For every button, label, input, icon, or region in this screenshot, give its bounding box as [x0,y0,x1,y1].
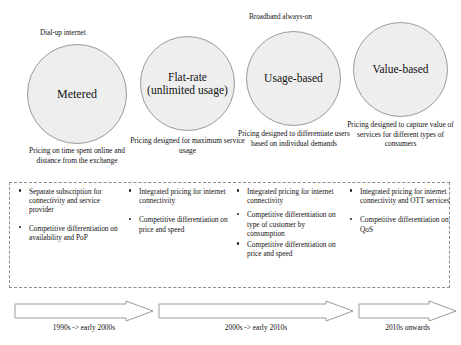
feature-item: Separate subscription for connectivity a… [18,187,123,215]
bullet-icon [237,189,239,191]
stage-3-caption: Pricing designed to differentiate users … [236,129,352,148]
feature-item-text: Competitive differentiation on price and… [139,215,228,233]
feature-column-1: Separate subscription for connectivity a… [18,187,123,247]
stage-3-circle-label: Usage-based [260,72,327,85]
feature-item-text: Competitive differentiation on type of c… [247,210,336,237]
bullet-icon [19,226,21,228]
stage-3-circle: Usage-based [246,31,341,126]
feature-column-3: Integrated pricing for internet connecti… [236,187,344,263]
feature-item-text: Competitive differentiation on QoS [360,215,449,233]
stage-1-top-label: Dial-up internet [40,29,86,38]
timeline-arrow-3 [358,300,457,322]
feature-item-text: Integrated pricing for internet connecti… [139,187,226,205]
feature-item-text: Integrated pricing for internet connecti… [247,187,334,205]
stage-2-caption: Pricing designed for maximum service usa… [128,136,247,155]
feature-comparison-box: Separate subscription for connectivity a… [9,182,450,288]
feature-item: Competitive differentiation on availabil… [18,224,123,242]
diagram-canvas: Dial-up internet Metered Pricing on time… [0,0,461,345]
bullet-icon [19,189,21,191]
bullet-icon [350,218,352,220]
feature-item-text: Competitive differentiation on availabil… [29,224,118,242]
timeline-label-3: 2010s onwards [358,323,457,332]
stage-4-circle-label: Value-based [368,63,432,76]
stage-4-circle: Value-based [353,22,448,117]
feature-column-2: Integrated pricing for internet connecti… [128,187,233,239]
feature-item-text: Integrated pricing for internet connecti… [360,187,450,205]
timeline-label-2: 2000s -> early 2010s [158,323,354,332]
feature-item: Competitive differentiation on QoS [349,215,453,233]
feature-column-4: Integrated pricing for internet connecti… [349,187,453,239]
bullet-icon [350,189,352,191]
bullet-icon [237,242,239,244]
stage-2-circle-label: Flat-rate (unlimited usage) [141,71,234,97]
timeline-arrow-1 [14,300,154,322]
bullet-icon [129,218,131,220]
feature-item-text: Competitive differentiation on price and… [247,240,336,258]
stage-1-circle: Metered [27,44,127,144]
feature-item: Competitive differentiation on type of c… [236,210,344,238]
timeline-arrow-2 [158,300,354,322]
stage-1-caption: Pricing on time spent online and distanc… [17,146,137,165]
stage-4-caption: Pricing designed to capture value of ser… [344,120,457,149]
timeline-label-1: 1990s -> early 2000s [14,323,154,332]
feature-item: Integrated pricing for internet connecti… [128,187,233,205]
feature-item: Competitive differentiation on price and… [128,215,233,233]
bullet-icon [237,213,239,215]
stage-3-top-label: Broadband always-on [249,13,312,22]
feature-item: Integrated pricing for internet connecti… [236,187,344,205]
bullet-icon [129,189,131,191]
feature-item: Integrated pricing for internet connecti… [349,187,453,205]
feature-item-text: Separate subscription for connectivity a… [29,187,102,214]
stage-1-circle-label: Metered [53,88,101,101]
stage-2-circle: Flat-rate (unlimited usage) [140,36,235,131]
feature-item: Competitive differentiation on price and… [236,240,344,258]
